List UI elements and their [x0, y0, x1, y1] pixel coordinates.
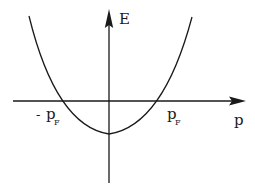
- minus-sign: -: [36, 107, 40, 122]
- f-subscript: F: [54, 118, 60, 127]
- energy-momentum-diagram: E p - p F p F: [0, 0, 255, 193]
- minus-fermi-momentum-label: - p F: [36, 105, 60, 127]
- parabola-right-branch: [109, 17, 192, 134]
- e-axis-label: E: [119, 10, 130, 28]
- p-axis-label: p: [234, 111, 244, 129]
- parabola-left-branch: [29, 16, 109, 134]
- f-subscript: F: [175, 118, 181, 127]
- fermi-momentum-label: p F: [167, 105, 181, 127]
